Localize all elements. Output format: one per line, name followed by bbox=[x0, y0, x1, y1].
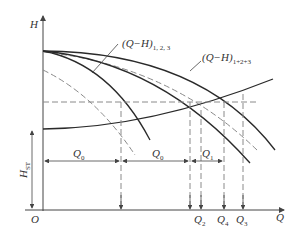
tick-label-q2: Q2 bbox=[194, 213, 206, 228]
origin-label: O bbox=[31, 213, 39, 225]
svg-text:HST: HST bbox=[17, 161, 32, 179]
leader-individual bbox=[92, 44, 118, 73]
hst-label: HST bbox=[17, 161, 32, 179]
dim-label-q0-second: Q0 bbox=[152, 147, 164, 162]
leader-combined bbox=[190, 61, 201, 71]
tick-label-q3: Q3 bbox=[236, 213, 248, 228]
curve-label-individual: (Q−H)1, 2, 3 bbox=[122, 37, 171, 52]
x-axis-label: Q bbox=[276, 211, 284, 223]
solid-curve-single bbox=[43, 51, 150, 140]
tick-label-q4: Q4 bbox=[217, 213, 229, 228]
pump-curve-diagram: H Q O (Q−H)1, 2, 3 (Q−H)1+2+3 HST Q0 bbox=[0, 0, 298, 241]
curve-label-combined: (Q−H)1+2+3 bbox=[202, 51, 252, 66]
y-axis-label: H bbox=[29, 18, 39, 30]
dim-label-q1: Q1 bbox=[202, 147, 214, 162]
dim-label-q0-first: Q0 bbox=[73, 147, 85, 162]
